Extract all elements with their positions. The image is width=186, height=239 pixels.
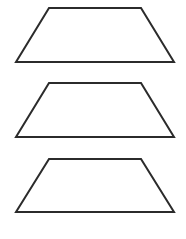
trapezoid-diagram xyxy=(0,0,186,239)
